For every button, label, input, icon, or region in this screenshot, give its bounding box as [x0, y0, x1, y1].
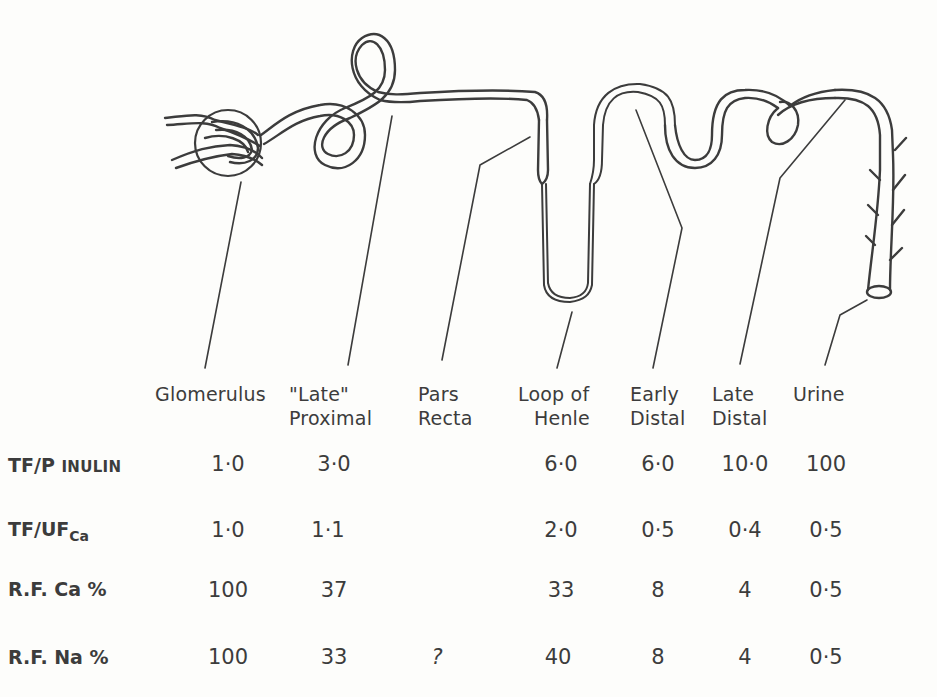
segment-label-late-distal: Late Distal — [712, 382, 767, 430]
table-cell: 1·0 — [188, 518, 268, 542]
segment-label-pars-recta: Pars Recta — [418, 382, 473, 430]
table-cell: 40 — [518, 645, 598, 669]
table-cell: 6·0 — [521, 452, 601, 476]
segment-label-urine: Urine — [793, 382, 845, 406]
table-cell: 10·0 — [705, 452, 785, 476]
table-cell: 0·5 — [786, 518, 866, 542]
table-cell: 6·0 — [618, 452, 698, 476]
table-cell: 1·1 — [288, 518, 368, 542]
table-cell: 1·0 — [188, 452, 268, 476]
segment-label-late-proximal: "Late" Proximal — [289, 382, 372, 430]
table-cell: 2·0 — [521, 518, 601, 542]
segment-label-early-distal: Early Distal — [630, 382, 685, 430]
row-label-rf-ca: R.F. Ca % — [8, 578, 107, 600]
table-cell: 100 — [188, 645, 268, 669]
table-cell: 8 — [618, 578, 698, 602]
table-cell: 8 — [618, 645, 698, 669]
nephron-figure: Glomerulus "Late" Proximal Pars Recta Lo… — [0, 0, 937, 697]
table-cell: 4 — [705, 645, 785, 669]
table-cell: 0·5 — [618, 518, 698, 542]
loop-of-henle-icon — [542, 84, 675, 302]
table-cell: 3·0 — [294, 452, 374, 476]
capillary-tuft-icon — [165, 115, 262, 168]
table-cell: ? — [397, 645, 477, 669]
row-label-tfuf-ca: TF/UFCa — [8, 518, 89, 544]
table-cell: 33 — [521, 578, 601, 602]
row-label-tfp-inulin: TF/P INULIN — [8, 454, 121, 476]
leader-lines — [205, 100, 867, 368]
proximal-tubule-icon — [261, 34, 548, 184]
table-cell: 0·5 — [786, 578, 866, 602]
segment-label-glomerulus: Glomerulus — [155, 382, 266, 406]
table-cell: 37 — [294, 578, 374, 602]
table-cell: 0·5 — [786, 645, 866, 669]
collecting-duct-icon — [835, 90, 906, 298]
table-cell: 33 — [294, 645, 374, 669]
table-cell: 100 — [188, 578, 268, 602]
table-cell: 0·4 — [705, 518, 785, 542]
table-cell: 100 — [786, 452, 866, 476]
distal-tubule-icon — [665, 90, 835, 168]
row-label-rf-na: R.F. Na % — [8, 646, 109, 668]
table-cell: 4 — [705, 578, 785, 602]
segment-label-loop-of-henle: Loop of Henle — [518, 382, 590, 430]
